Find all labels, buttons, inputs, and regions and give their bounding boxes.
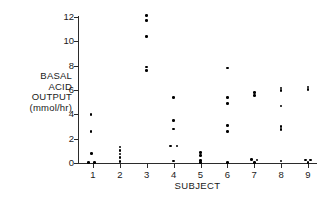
data-point [90, 152, 93, 155]
data-point [253, 161, 256, 164]
data-point [145, 66, 148, 69]
y-axis-tick [74, 17, 78, 18]
y-axis-tick [74, 114, 78, 115]
x-axis-title: SUBJECT [78, 181, 317, 191]
x-axis-tick-label: 4 [167, 170, 181, 180]
y-axis-title-line-1: BASAL [6, 71, 72, 82]
x-axis-tick-label: 7 [247, 170, 261, 180]
x-axis-tick [227, 164, 228, 168]
x-axis-tick [201, 164, 202, 168]
data-point [119, 156, 122, 159]
data-point [280, 89, 283, 92]
y-axis-tick-label: 8 [54, 61, 74, 71]
x-axis-tick [308, 164, 309, 168]
data-point [226, 124, 229, 127]
data-point [145, 14, 148, 17]
data-point [199, 154, 202, 157]
y-axis-tick [74, 41, 78, 42]
x-axis-tick-label: 1 [86, 170, 100, 180]
data-point [253, 94, 256, 97]
data-point [309, 159, 312, 162]
x-axis-tick [174, 164, 175, 168]
data-point [145, 35, 148, 38]
data-point [119, 153, 122, 156]
data-point [90, 113, 93, 116]
y-axis-tick [74, 66, 78, 67]
data-point [226, 102, 229, 105]
y-axis-tick [74, 90, 78, 91]
data-point [176, 145, 179, 148]
x-axis-tick [120, 164, 121, 168]
data-point [250, 158, 253, 161]
x-axis-tick [147, 164, 148, 168]
y-axis-tick-label: 10 [54, 36, 74, 46]
y-axis-line [78, 16, 79, 164]
data-point [307, 161, 310, 164]
data-point [280, 128, 283, 131]
data-point [199, 161, 202, 164]
x-axis-tick-label: 5 [194, 170, 208, 180]
data-point [226, 96, 229, 99]
data-point [169, 145, 172, 148]
y-axis-tick-label: 6 [54, 85, 74, 95]
x-axis-tick [254, 164, 255, 168]
data-point [145, 69, 148, 72]
data-point [226, 130, 229, 133]
data-point [87, 161, 90, 164]
x-axis-tick [281, 164, 282, 168]
data-point [307, 88, 310, 91]
data-point [280, 105, 283, 108]
y-axis-tick-label: 2 [54, 134, 74, 144]
y-axis-tick [74, 163, 78, 164]
data-point [119, 149, 122, 152]
data-point [172, 128, 175, 131]
x-axis-tick [93, 164, 94, 168]
data-point [226, 67, 229, 70]
scatter-plot-figure: BASAL ACID OUTPUT (mmol/hr) 024681012 12… [0, 0, 326, 198]
y-axis-tick [74, 139, 78, 140]
data-point [172, 119, 175, 122]
y-axis-tick-label: 4 [54, 109, 74, 119]
data-point [93, 161, 96, 164]
data-point [256, 159, 259, 162]
x-axis-tick-label: 8 [274, 170, 288, 180]
data-point [145, 19, 148, 22]
x-axis-tick-label: 6 [220, 170, 234, 180]
x-axis-tick-label: 2 [113, 170, 127, 180]
data-point [226, 161, 229, 164]
y-axis-tick-label: 12 [54, 12, 74, 22]
data-point [90, 130, 93, 133]
x-axis-tick-label: 3 [140, 170, 154, 180]
y-axis-tick-label: 0 [54, 158, 74, 168]
data-point [172, 96, 175, 99]
x-axis-tick-label: 9 [301, 170, 315, 180]
